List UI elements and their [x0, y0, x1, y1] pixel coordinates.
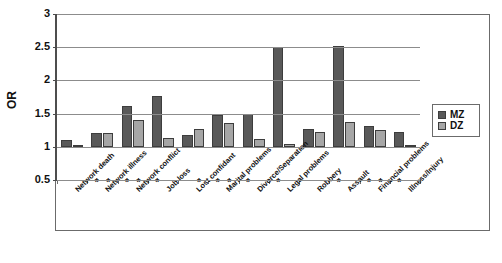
y-axis-tick — [53, 47, 57, 48]
bar-mz-9 — [333, 46, 344, 147]
legend-swatch-dz-icon — [438, 122, 446, 130]
bar-dz-4 — [194, 129, 205, 147]
legend-label-dz: DZ — [450, 121, 463, 131]
y-axis-tick — [53, 180, 57, 181]
bar-dz-5 — [224, 123, 235, 147]
bar-mz-3 — [152, 96, 163, 147]
y-axis-tick-label: 2.5 — [24, 41, 50, 52]
bar-mz-4 — [182, 135, 193, 147]
bar-mz-5 — [212, 115, 223, 147]
y-axis-tick — [53, 147, 57, 148]
bar-dz-8 — [315, 132, 326, 147]
bar-dz-2 — [133, 120, 144, 147]
bar-mz-6 — [243, 114, 254, 147]
legend-swatch-mz-icon — [438, 111, 446, 119]
bar-dz-3 — [163, 138, 174, 147]
y-axis-tick-label: 1.5 — [24, 108, 50, 119]
bar-dz-1 — [103, 133, 114, 147]
bar-dz-9 — [345, 122, 356, 147]
y-axis-tick-label: 0.5 — [24, 174, 50, 185]
x-axis-category-labels: Network deathNetwork illnessNetwork conf… — [57, 186, 457, 263]
bar-dz-10 — [375, 130, 386, 147]
legend-item-mz: MZ — [438, 110, 474, 120]
gridline — [55, 147, 420, 148]
gridline — [55, 47, 420, 48]
y-axis-tick-label: 2 — [24, 74, 50, 85]
y-axis-tick — [53, 80, 57, 81]
chart-root: 0.511.522.53 OR ************** Network d… — [0, 0, 502, 263]
gridline — [55, 14, 420, 15]
legend-item-dz: DZ — [438, 121, 474, 131]
legend-label-mz: MZ — [450, 110, 464, 120]
bar-dz-6 — [254, 139, 265, 147]
bar-mz-11 — [394, 132, 405, 147]
gridline-baseline — [55, 180, 420, 181]
gridline — [55, 114, 420, 115]
y-axis-tick — [53, 114, 57, 115]
bar-mz-10 — [364, 126, 375, 147]
bar-mz-7 — [273, 47, 284, 147]
bar-mz-1 — [91, 133, 102, 147]
gridline — [55, 80, 420, 81]
bar-mz-2 — [122, 106, 133, 147]
y-axis-title: OR — [5, 80, 19, 120]
y-axis-tick-label: 3 — [24, 8, 50, 19]
y-axis-tick-label: 1 — [24, 141, 50, 152]
chart-legend: MZ DZ — [432, 104, 480, 137]
y-axis-tick — [53, 14, 57, 15]
y-axis-tick-labels: 0.511.522.53 — [20, 0, 50, 263]
